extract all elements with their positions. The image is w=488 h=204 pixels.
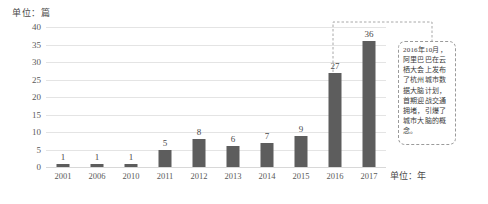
bar-group[interactable]: 12006 [80,27,114,167]
bar-group[interactable]: 12010 [114,27,148,167]
y-axis-tick-label: 25 [32,75,41,85]
y-axis-tick-label: 0 [37,162,42,172]
bar-value-label: 5 [163,138,168,148]
y-axis-tick-label: 20 [32,92,41,102]
bar[interactable] [363,41,376,167]
x-axis-tick-label: 2017 [361,171,378,181]
bar[interactable] [295,136,308,168]
bar-value-label: 8 [197,127,202,137]
x-axis-tick-label: 2011 [157,171,174,181]
bar-value-label: 27 [331,61,340,71]
bar-value-label: 1 [129,152,134,162]
bar-group[interactable]: 362017 [352,27,386,167]
annotation-callout: 2016年10月，阿里巴巴在云栖大会上发布了杭州城市数据大脑计划，首期迎战交通拥… [398,41,456,145]
y-axis-unit-label: 单位：篇 [12,6,50,19]
bar-group[interactable]: 72014 [250,27,284,167]
bar-chart: 单位：篇 0510152025303540 120011200612010520… [0,0,488,204]
x-axis-tick-label: 2014 [259,171,276,181]
bar[interactable] [91,164,104,168]
y-axis-tick-label: 5 [37,145,42,155]
x-axis-tick-label: 2006 [89,171,106,181]
bar-value-label: 1 [95,152,100,162]
y-axis-tick-label: 30 [32,57,41,67]
x-axis-tick-label: 2010 [123,171,140,181]
bar-group[interactable]: 92015 [284,27,318,167]
x-axis-tick-label: 2016 [327,171,344,181]
y-axis-tick-label: 40 [32,22,41,32]
bar-group[interactable]: 272016 [318,27,352,167]
bar-group[interactable]: 82012 [182,27,216,167]
bar-value-label: 1 [61,152,66,162]
bar[interactable] [159,150,172,168]
bar-group[interactable]: 62013 [216,27,250,167]
x-axis-unit-label: 单位：年 [390,169,426,182]
gridline: 0 [46,167,386,168]
bar[interactable] [227,146,240,167]
y-axis-tick-label: 35 [32,40,41,50]
bar-group[interactable]: 12001 [46,27,80,167]
bar-group[interactable]: 52011 [148,27,182,167]
bar-series: 1200112006120105201182012620137201492015… [46,27,386,167]
bar-value-label: 7 [265,131,270,141]
bar-value-label: 36 [365,29,374,39]
bar[interactable] [57,164,70,168]
bar[interactable] [125,164,138,168]
bar[interactable] [329,73,342,168]
plot-area: 0510152025303540 12001120061201052011820… [46,27,386,167]
bar-value-label: 6 [231,134,236,144]
y-axis-tick-label: 15 [32,110,41,120]
bar-value-label: 9 [299,124,304,134]
y-axis-tick-label: 10 [32,127,41,137]
x-axis-tick-label: 2015 [293,171,310,181]
x-axis-tick-label: 2013 [225,171,242,181]
bar[interactable] [261,143,274,168]
x-axis-tick-label: 2001 [55,171,72,181]
bar[interactable] [193,139,206,167]
x-axis-tick-label: 2012 [191,171,208,181]
